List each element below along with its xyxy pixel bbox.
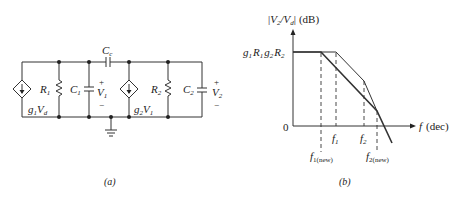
y-axis-arrow-icon [291, 29, 296, 35]
label-g1vd: g1Vd [28, 103, 48, 117]
label-c1: C1 [70, 83, 81, 97]
bode-plot: |V2/Vd|(dB) g1R1g2R2 0 f(dec) f1 f2 f1(n… [243, 13, 449, 188]
label-v1: + V1 − [97, 77, 107, 110]
svg-text:V1: V1 [97, 86, 107, 100]
tick-f1-new: f1(new) [310, 150, 334, 164]
tick-f2: f2 [360, 132, 367, 146]
tick-f1: f1 [332, 132, 339, 146]
capacitor-c2 [197, 62, 207, 117]
y-axis-label: |V2/Vd|(dB) [268, 13, 319, 27]
resistor-r1 [56, 62, 62, 117]
capacitor-c1 [84, 62, 94, 117]
label-v2: + V2 − [212, 77, 223, 110]
label-c2: C2 [183, 83, 194, 97]
label-r1: R1 [39, 83, 50, 97]
capacitor-cc [103, 57, 112, 67]
caption-b: (b) [339, 176, 351, 188]
ground-symbol [105, 117, 117, 136]
y-level-label: g1R1g2R2 [243, 46, 285, 60]
svg-text:−: − [99, 100, 104, 110]
origin-label: 0 [283, 121, 289, 133]
figure-canvas: g1Vd R1 C1 + V1 − Cc g2V1 R2 C2 + V2 − (… [0, 0, 457, 197]
svg-text:V2: V2 [212, 86, 223, 100]
resistor-r2 [165, 62, 171, 117]
circuit-schematic: g1Vd R1 C1 + V1 − Cc g2V1 R2 C2 + V2 − (… [13, 44, 223, 188]
label-cc: Cc [102, 44, 113, 58]
tick-f2-new: f2(new) [366, 150, 390, 164]
label-r2: R2 [150, 83, 162, 97]
label-g2v1: g2V1 [134, 103, 153, 117]
x-axis-label: f(dec) [419, 120, 449, 133]
svg-text:−: − [214, 100, 219, 110]
caption-a: (a) [104, 176, 116, 188]
x-axis-arrow-icon [410, 124, 416, 129]
curve-compensated [293, 52, 392, 143]
